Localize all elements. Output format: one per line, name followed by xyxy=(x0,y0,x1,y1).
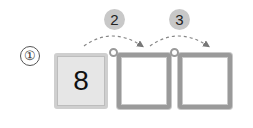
step-badge-2: 2 xyxy=(104,9,125,30)
box-1-value: 8 xyxy=(57,56,105,106)
step-badge-3: 3 xyxy=(169,9,190,30)
box-1: 8 xyxy=(54,53,108,109)
box-3-answer[interactable] xyxy=(178,53,232,109)
connector-ring-1 xyxy=(109,48,118,57)
box-2-answer[interactable] xyxy=(117,53,171,109)
arrow-step-3 xyxy=(150,36,208,46)
connector-ring-2 xyxy=(170,48,179,57)
arrow-step-2 xyxy=(84,36,142,46)
